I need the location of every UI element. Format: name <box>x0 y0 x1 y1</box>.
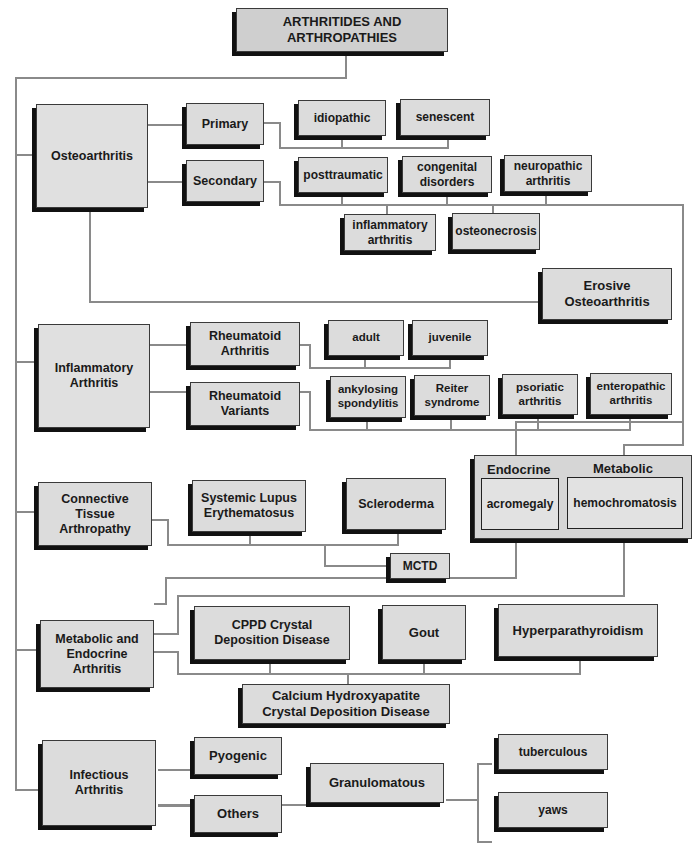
inflammatory-arthritis-box: Inflammatory Arthritis <box>38 324 150 428</box>
enteropathic-arthritis-box: enteropathic arthritis <box>590 373 672 415</box>
infectious-arthritis-box: Infectious Arthritis <box>42 740 156 826</box>
hyperparathyroidism-box: Hyperparathyroidism <box>498 604 658 657</box>
gout-box: Gout <box>382 605 466 660</box>
pyogenic-box: Pyogenic <box>194 737 282 775</box>
mctd-box: MCTD <box>390 553 450 579</box>
juvenile-box: juvenile <box>412 320 488 356</box>
tuberculous-box: tuberculous <box>498 734 608 770</box>
erosive-osteoarthritis-box: Erosive Osteoarthritis <box>542 268 672 320</box>
systemic-lupus-box: Systemic Lupus Erythematosus <box>192 480 306 532</box>
title-text: ARTHRITIDES AND ARTHROPATHIES <box>283 14 402 45</box>
scleroderma-box: Scleroderma <box>346 478 446 530</box>
others-box: Others <box>194 795 282 833</box>
osteoarthritis-box: Osteoarthritis <box>36 104 148 208</box>
reiter-syndrome-box: Reiter syndrome <box>414 375 490 416</box>
posttraumatic-box: posttraumatic <box>298 157 388 193</box>
secondary-box: Secondary <box>186 160 264 202</box>
idiopathic-box: idiopathic <box>298 100 386 136</box>
rheumatoid-variants-box: Rheumatoid Variants <box>190 382 300 426</box>
osteonecrosis-box: osteonecrosis <box>452 213 540 250</box>
psoriatic-arthritis-box: psoriatic arthritis <box>502 374 578 415</box>
cppd-box: CPPD Crystal Deposition Disease <box>194 606 350 660</box>
metabolic-endocrine-arthritis-box: Metabolic and Endocrine Arthritis <box>40 620 154 688</box>
diagram-canvas: ARTHRITIDES AND ARTHROPATHIES Osteoarthr… <box>0 0 698 850</box>
acromegaly-box: acromegaly <box>481 478 559 530</box>
metabolic-header: Metabolic <box>593 461 653 476</box>
endocrine-header: Endocrine <box>487 462 551 477</box>
inflammatory-arthritis-sub-box: inflammatory arthritis <box>344 214 436 251</box>
hemochromatosis-box: hemochromatosis <box>567 477 683 529</box>
calcium-hydroxyapatite-box: Calcium Hydroxyapatite Crystal Depositio… <box>242 684 450 724</box>
primary-box: Primary <box>186 103 264 145</box>
congenital-disorders-box: congenital disorders <box>402 156 492 193</box>
adult-box: adult <box>328 320 404 356</box>
yaws-box: yaws <box>498 792 608 828</box>
title-box: ARTHRITIDES AND ARTHROPATHIES <box>236 8 448 52</box>
granulomatous-box: Granulomatous <box>310 763 444 803</box>
ankylosing-spondylitis-box: ankylosing spondylitis <box>330 376 406 418</box>
neuropathic-arthritis-box: neuropathic arthritis <box>504 155 592 192</box>
connective-tissue-arthropathy-box: Connective Tissue Arthropathy <box>38 482 152 546</box>
senescent-box: senescent <box>400 99 490 136</box>
endocrine-metabolic-group: Endocrine Metabolic acromegaly hemochrom… <box>474 455 692 539</box>
rheumatoid-arthritis-box: Rheumatoid Arthritis <box>190 322 300 366</box>
